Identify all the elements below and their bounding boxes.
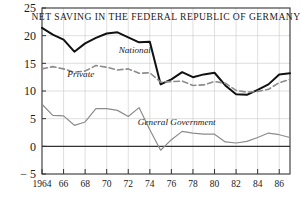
x-tick-label: 66	[59, 179, 69, 189]
chart-title: NET SAVING IN THE FEDERAL REPUBLIC OF GE…	[31, 11, 300, 22]
net-saving-line-chart: − 50510152025 19646668707274767880828486…	[0, 0, 303, 201]
chart-figure: − 50510152025 19646668707274767880828486…	[0, 0, 303, 201]
y-tick-label: 20	[24, 29, 36, 43]
x-tick-label: 80	[210, 179, 220, 189]
x-tick-label: 78	[188, 179, 198, 189]
series-label-national: National	[118, 45, 152, 55]
x-tick-label: 76	[167, 179, 177, 189]
y-tick-label: 0	[30, 140, 36, 154]
x-tick-label: 1964	[33, 179, 52, 189]
y-tick-label: 5	[30, 112, 36, 126]
x-tick-label: 86	[274, 179, 284, 189]
x-axis-tick-labels: 19646668707274767880828486	[33, 179, 285, 189]
y-axis-tick-labels: − 50510152025	[20, 1, 36, 181]
y-tick-label: 10	[24, 84, 36, 98]
x-tick-label: 84	[253, 179, 263, 189]
x-tick-label: 82	[231, 179, 241, 189]
x-tick-label: 74	[145, 179, 155, 189]
x-tick-label: 68	[80, 179, 90, 189]
series-label-private: Private	[66, 69, 94, 79]
series-label-general-government: General Government	[138, 117, 216, 127]
x-tick-label: 70	[102, 179, 112, 189]
y-tick-label: 15	[24, 57, 36, 71]
x-tick-label: 72	[124, 179, 134, 189]
